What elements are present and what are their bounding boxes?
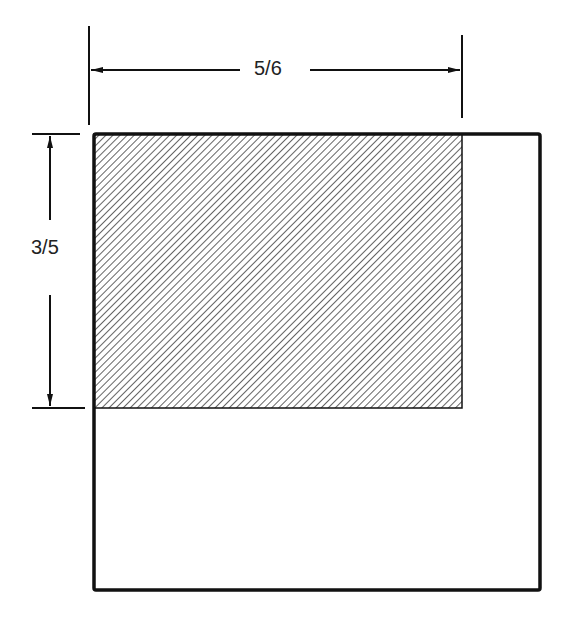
height-label: 3/5 (27, 236, 63, 259)
shaded-region (94, 134, 462, 408)
width-label: 5/6 (250, 57, 286, 80)
height-dimension (32, 134, 85, 408)
fraction-area-diagram (0, 0, 563, 622)
